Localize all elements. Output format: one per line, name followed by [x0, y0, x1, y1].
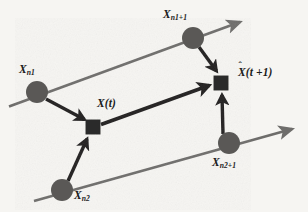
node-xn2[interactable] [51, 179, 73, 201]
label-xn1-plus-1: Xn1+1 [163, 9, 187, 21]
label-xn2: Xn2 [74, 190, 90, 202]
edge-xn2plus1-to-xhat [222, 95, 223, 134]
node-x-hat-of-t-plus-1[interactable] [214, 76, 229, 91]
diagram-graphics [0, 0, 308, 212]
label-x-hat-of-t-plus-1: ˆX(t +1) [238, 67, 272, 79]
label-xn1-base: X [19, 63, 27, 75]
label-xn1-plus-1-subscript: n1+1 [171, 13, 187, 22]
x-hat-glyph: ˆX [238, 67, 246, 79]
label-x-hat-argument: (t +1) [246, 66, 273, 78]
label-x-of-t: X(t) [97, 98, 116, 110]
node-xn1[interactable] [26, 81, 48, 103]
label-xn1-plus-1-base: X [163, 8, 171, 20]
label-xn2-base: X [74, 189, 82, 201]
node-xn2-plus-1[interactable] [218, 132, 240, 154]
label-xn2-plus-1-subscript: n2+1 [220, 161, 236, 170]
hat-accent-icon: ˆ [239, 61, 242, 71]
node-x-of-t[interactable] [86, 120, 101, 135]
label-xn1: Xn1 [19, 64, 35, 76]
diagram-canvas: Xn1 Xn1+1 X(t) ˆX(t +1) Xn2+1 Xn2 [0, 0, 308, 212]
node-xn1-plus-1[interactable] [182, 27, 204, 49]
label-xn2-plus-1: Xn2+1 [212, 157, 236, 169]
label-xn2-plus-1-base: X [212, 156, 220, 168]
label-xn1-subscript: n1 [27, 68, 35, 77]
label-xn2-subscript: n2 [82, 194, 90, 203]
